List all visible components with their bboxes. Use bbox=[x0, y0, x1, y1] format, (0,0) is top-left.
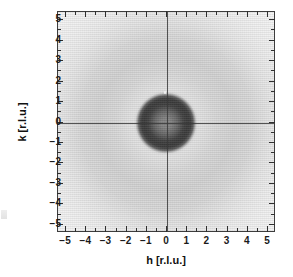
tick-mark-y bbox=[271, 50, 275, 51]
tick-mark-y bbox=[271, 193, 275, 194]
tick-mark-x bbox=[65, 11, 66, 17]
tick-mark-x bbox=[156, 11, 157, 15]
tick-mark-x bbox=[227, 11, 228, 17]
tick-mark-y bbox=[271, 214, 275, 215]
tick-mark-x bbox=[257, 228, 258, 232]
x-tick-label: −1 bbox=[140, 236, 151, 246]
tick-mark-y bbox=[269, 122, 275, 123]
tick-mark-x bbox=[136, 11, 137, 15]
tick-mark-y bbox=[271, 29, 275, 30]
y-tick-label: 3 bbox=[55, 55, 61, 65]
tick-mark-y bbox=[269, 224, 275, 225]
tick-mark-y bbox=[269, 142, 275, 143]
tick-mark-y bbox=[57, 173, 61, 174]
bright-pixel-artifact bbox=[164, 91, 166, 94]
x-tick-label: 5 bbox=[264, 236, 270, 246]
y-tick-label: 2 bbox=[55, 76, 61, 86]
tick-mark-y bbox=[269, 183, 275, 184]
tick-mark-x bbox=[206, 226, 207, 232]
tick-mark-y bbox=[57, 214, 61, 215]
tick-mark-y bbox=[269, 162, 275, 163]
tick-mark-x bbox=[116, 11, 117, 15]
y-tick-label: 4 bbox=[55, 35, 61, 45]
tick-mark-y bbox=[57, 70, 61, 71]
tick-mark-x bbox=[206, 11, 207, 17]
y-tick-label: −4 bbox=[50, 198, 61, 208]
tick-mark-y bbox=[271, 111, 275, 112]
tick-mark-x bbox=[65, 226, 66, 232]
y-axis-title: k [r.l.u.] bbox=[16, 102, 28, 141]
scan-edge-artifact bbox=[1, 210, 7, 219]
tick-mark-x bbox=[116, 228, 117, 232]
tick-mark-x bbox=[75, 228, 76, 232]
tick-mark-x bbox=[216, 11, 217, 15]
tick-mark-x bbox=[216, 228, 217, 232]
x-tick-label: −3 bbox=[100, 236, 111, 246]
plot-area bbox=[57, 11, 275, 232]
tick-mark-x bbox=[247, 11, 248, 17]
tick-mark-x bbox=[196, 11, 197, 15]
tick-mark-x bbox=[227, 226, 228, 232]
tick-mark-x bbox=[166, 11, 167, 17]
tick-mark-y bbox=[271, 132, 275, 133]
tick-mark-x bbox=[186, 11, 187, 17]
x-tick-label: 3 bbox=[224, 236, 230, 246]
tick-mark-x bbox=[156, 228, 157, 232]
x-tick-label: −5 bbox=[59, 236, 70, 246]
tick-mark-x bbox=[95, 11, 96, 15]
tick-mark-x bbox=[186, 226, 187, 232]
crosshair-vertical bbox=[167, 12, 168, 231]
tick-mark-x bbox=[105, 226, 106, 232]
tick-mark-x bbox=[176, 11, 177, 15]
tick-mark-x bbox=[267, 226, 268, 232]
tick-mark-y bbox=[271, 91, 275, 92]
tick-mark-x bbox=[85, 226, 86, 232]
x-tick-label: 0 bbox=[163, 236, 169, 246]
tick-mark-y bbox=[271, 152, 275, 153]
tick-mark-x bbox=[105, 11, 106, 17]
x-tick-label: 4 bbox=[244, 236, 250, 246]
tick-mark-x bbox=[237, 228, 238, 232]
tick-mark-y bbox=[269, 40, 275, 41]
tick-mark-x bbox=[95, 228, 96, 232]
y-tick-label: −2 bbox=[50, 157, 61, 167]
tick-mark-x bbox=[136, 228, 137, 232]
tick-mark-x bbox=[126, 11, 127, 17]
tick-mark-x bbox=[146, 226, 147, 232]
tick-mark-x bbox=[196, 228, 197, 232]
tick-mark-y bbox=[57, 132, 61, 133]
tick-mark-y bbox=[269, 60, 275, 61]
tick-mark-y bbox=[57, 29, 61, 30]
x-tick-label: 2 bbox=[204, 236, 210, 246]
tick-mark-y bbox=[57, 193, 61, 194]
tick-mark-x bbox=[237, 11, 238, 15]
y-tick-label: 0 bbox=[55, 117, 61, 127]
tick-mark-x bbox=[176, 228, 177, 232]
tick-mark-x bbox=[257, 11, 258, 15]
tick-mark-y bbox=[57, 50, 61, 51]
tick-mark-y bbox=[269, 101, 275, 102]
scan-grain-layer bbox=[58, 12, 274, 231]
tick-mark-x bbox=[126, 226, 127, 232]
x-tick-label: −4 bbox=[80, 236, 91, 246]
tick-mark-x bbox=[75, 11, 76, 15]
tick-mark-y bbox=[57, 111, 61, 112]
crosshair-horizontal bbox=[58, 123, 274, 124]
tick-mark-y bbox=[57, 152, 61, 153]
y-tick-label: −1 bbox=[50, 137, 61, 147]
y-tick-label: 1 bbox=[55, 96, 61, 106]
tick-mark-x bbox=[85, 11, 86, 17]
tick-mark-y bbox=[269, 19, 275, 20]
x-axis-title: h [r.l.u.] bbox=[146, 254, 186, 266]
y-tick-label: −3 bbox=[50, 178, 61, 188]
y-tick-label: −5 bbox=[50, 219, 61, 229]
tick-mark-y bbox=[57, 91, 61, 92]
tick-mark-y bbox=[271, 173, 275, 174]
tick-mark-y bbox=[271, 70, 275, 71]
y-tick-label: 5 bbox=[55, 14, 61, 24]
tick-mark-x bbox=[247, 226, 248, 232]
tick-mark-y bbox=[269, 81, 275, 82]
intensity-map-figure: −5−4−3−2−1012345 −5−4−3−2−1012345 h [r.l… bbox=[0, 0, 293, 277]
x-tick-label: −2 bbox=[120, 236, 131, 246]
tick-mark-x bbox=[267, 11, 268, 17]
